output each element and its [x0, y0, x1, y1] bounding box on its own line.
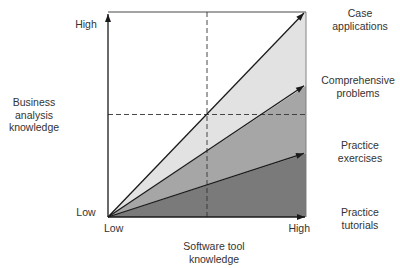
region-label-practice-exercises: Practice exercises	[318, 139, 400, 164]
region-label-practice-tutorials: Practice tutorials	[318, 206, 400, 231]
y-axis-title-line: analysis	[0, 109, 68, 122]
x-axis-title-line: knowledge	[160, 253, 268, 266]
region-label-comprehensive-problems: Comprehensive problems	[314, 74, 400, 99]
region-label-line: Practice	[318, 206, 400, 219]
region-label-line: Comprehensive	[314, 74, 400, 87]
region-label-line: Practice	[318, 139, 400, 152]
region-label-line: problems	[314, 87, 400, 100]
x-axis-title-line: Software tool	[160, 240, 268, 253]
region-label-line: applications	[318, 20, 400, 33]
y-tick-high: High	[70, 18, 102, 31]
y-tick-low: Low	[70, 206, 102, 219]
region-label-case-applications: Case applications	[318, 7, 400, 32]
y-axis-title-line: Business	[0, 96, 68, 109]
x-tick-high: High	[278, 222, 310, 235]
y-axis-arrowhead	[105, 14, 111, 22]
x-tick-low: Low	[104, 222, 136, 235]
x-axis-title: Software tool knowledge	[160, 240, 268, 265]
region-label-line: exercises	[318, 152, 400, 165]
y-axis-title: Business analysis knowledge	[0, 96, 68, 134]
region-label-line: tutorials	[318, 219, 400, 232]
y-axis-title-line: knowledge	[0, 121, 68, 134]
region-label-line: Case	[318, 7, 400, 20]
